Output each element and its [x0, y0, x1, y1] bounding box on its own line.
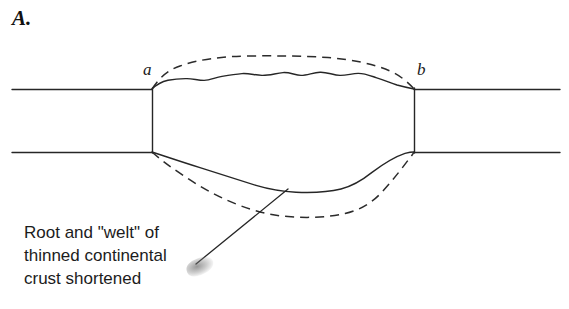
crustal-root-solid-curve [152, 152, 414, 192]
caption-line-3: crust shortened [24, 267, 167, 290]
caption-line-2: thinned continental [24, 244, 167, 267]
point-label-a: a [143, 60, 152, 80]
figure-panel-a: A. a b Root and "welt" of thinned contin… [0, 0, 569, 309]
caption-leader-line [196, 189, 288, 264]
crustal-root-dashed-curve [152, 152, 414, 217]
panel-label: A. [12, 6, 31, 31]
caption-line-1: Root and "welt" of [24, 221, 167, 244]
caption-text-block: Root and "welt" of thinned continental c… [24, 221, 167, 290]
point-label-b: b [417, 60, 426, 80]
eroded-topographic-surface-wavy-line [152, 72, 414, 89]
